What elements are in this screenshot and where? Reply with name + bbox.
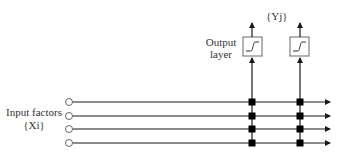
weight-node-icon	[297, 140, 304, 147]
input-label-line2: {Xi}	[4, 119, 64, 131]
network-diagram	[0, 0, 346, 157]
weight-node-icon	[297, 99, 304, 106]
output-column-2	[290, 23, 309, 147]
input-node-icon	[66, 140, 73, 147]
input-label-line1: Input factors	[4, 106, 64, 118]
output-set-label: {Yj}	[266, 10, 288, 22]
input-node-icon	[66, 99, 73, 106]
output-layer-label-line2: layer	[203, 48, 239, 60]
input-node-icon	[66, 113, 73, 120]
weight-node-icon	[297, 126, 304, 133]
input-lines	[73, 102, 330, 143]
weight-node-icon	[249, 113, 256, 120]
input-nodes	[66, 99, 73, 147]
output-column-1	[243, 23, 262, 147]
weight-node-icon	[249, 99, 256, 106]
weight-node-icon	[249, 126, 256, 133]
weight-node-icon	[297, 113, 304, 120]
output-layer-label-line1: Output	[203, 36, 239, 48]
weight-node-icon	[249, 140, 256, 147]
input-node-icon	[66, 126, 73, 133]
